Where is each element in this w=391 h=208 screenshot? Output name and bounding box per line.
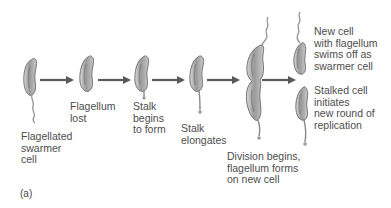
label-flagellum-lost: Flagellum lost [70, 101, 116, 124]
panel-label: (a) [20, 188, 32, 199]
dividing-cell-icon [246, 17, 268, 140]
label-line: on new cell [227, 174, 301, 186]
label-new-swarmer-cell: New cell with flagellum swims off as swa… [314, 26, 378, 72]
label-line: New cell [314, 26, 378, 38]
label-line: Stalk [181, 123, 227, 135]
label-line: lost [70, 113, 116, 125]
label-line: Stalked cell [314, 85, 375, 97]
label-line: Flagellated [21, 131, 72, 143]
label-line: to form [133, 124, 166, 136]
label-stalked-cell: Stalked cell initiates new round of repl… [314, 85, 375, 131]
label-flagellated-swarmer-cell: Flagellated swarmer cell [21, 131, 72, 166]
cell-stalk-elongates-icon [190, 56, 204, 114]
cell-stalk-begins-icon [135, 56, 149, 100]
label-line: Flagellum [70, 101, 116, 113]
label-stalk-elongates: Stalk elongates [181, 123, 227, 146]
new-swarmer-cell-icon [294, 12, 306, 74]
label-division-begins: Division begins, flagellum forms on new … [227, 151, 301, 186]
label-line: cell [21, 154, 72, 166]
label-stalk-begins: Stalk begins to form [133, 101, 166, 136]
cell-no-flagellum-icon [80, 56, 94, 92]
stalked-cell-icon [296, 87, 308, 146]
label-line: elongates [181, 135, 227, 147]
label-line: Stalk [133, 101, 166, 113]
label-line: replication [314, 120, 375, 132]
label-line: Division begins, [227, 151, 301, 163]
label-line: swarmer cell [314, 61, 378, 73]
swarmer-cell-icon [24, 59, 37, 124]
